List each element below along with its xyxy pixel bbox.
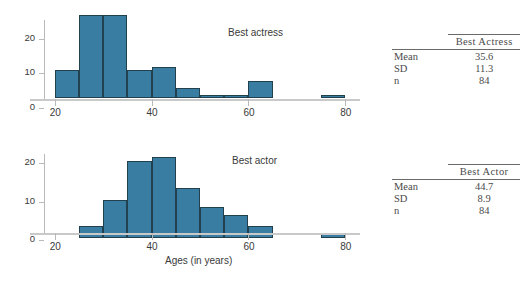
x-axis-tick: 80 <box>345 233 346 240</box>
table-row: Mean 44.7 <box>392 180 520 192</box>
row-label: n <box>392 204 448 216</box>
x-axis-title: Ages (in years) <box>165 255 232 266</box>
plot-area-best-actor <box>45 152 355 238</box>
row-label: Mean <box>392 50 448 62</box>
x-axis-tick-label: 80 <box>340 107 351 118</box>
x-axis-tick-label: 40 <box>147 241 158 252</box>
y-axis-tick: 0 <box>39 108 44 109</box>
row-value: 84 <box>448 74 520 86</box>
x-axis-tick-label: 60 <box>243 107 254 118</box>
chart-title-best-actress: Best actress <box>228 27 283 38</box>
table-row: Mean 35.6 <box>392 50 520 62</box>
x-axis-tick-label: 80 <box>340 241 351 252</box>
table-header-row: Best Actress <box>392 35 520 49</box>
x-axis-tick: 60 <box>248 99 249 106</box>
x-axis-tick: 40 <box>152 99 153 106</box>
histogram-bar <box>127 161 151 238</box>
x-axis-best-actress: 20406080 <box>30 99 360 101</box>
y-axis-tick-label: 0 <box>30 101 39 112</box>
row-value: 84 <box>448 204 520 216</box>
x-axis-tick: 60 <box>248 233 249 240</box>
column-header: Best Actress <box>448 35 520 49</box>
row-value: 8.9 <box>448 192 520 204</box>
y-axis-tick: 0 <box>39 240 44 241</box>
table-row: SD 11.3 <box>392 62 520 74</box>
histogram-best-actress: 01020 20406080 Best actress <box>0 0 370 140</box>
histogram-bar <box>176 88 200 98</box>
table-row: n 84 <box>392 204 520 216</box>
y-axis-tick-label: 20 <box>24 156 39 167</box>
x-axis-tick: 80 <box>345 99 346 106</box>
y-axis-best-actor: 01020 <box>44 154 45 233</box>
x-axis-tick: 20 <box>55 99 56 106</box>
y-axis-tick-label: 20 <box>24 32 39 43</box>
histogram-bar <box>152 67 176 98</box>
histogram-bar <box>224 95 248 98</box>
row-value: 44.7 <box>448 180 520 192</box>
y-axis-tick-label: 10 <box>24 66 39 77</box>
column-header: Best Actor <box>448 165 520 179</box>
row-label: Mean <box>392 180 448 192</box>
histogram-bar <box>103 15 127 98</box>
row-label: SD <box>392 192 448 204</box>
histogram-bar <box>127 70 151 98</box>
x-axis-tick-label: 20 <box>50 241 61 252</box>
row-value: 35.6 <box>448 50 520 62</box>
best-actress-stats-table: Best Actress Mean 35.6 SD 11.3 n 84 <box>392 34 520 86</box>
histogram-bar <box>200 95 224 98</box>
table-header-row: Best Actor <box>392 165 520 179</box>
chart-title-best-actor: Best actor <box>232 155 277 166</box>
x-axis-tick-label: 60 <box>243 241 254 252</box>
x-axis-tick-label: 40 <box>147 107 158 118</box>
histogram-bar <box>321 95 345 98</box>
plot-area-best-actress <box>45 10 355 98</box>
y-axis-tick: 20 <box>39 163 44 164</box>
y-axis-tick-label: 10 <box>24 195 39 206</box>
table-row: SD 8.9 <box>392 192 520 204</box>
table-row: n 84 <box>392 74 520 86</box>
histogram-bar <box>152 157 176 238</box>
y-axis-tick: 10 <box>39 73 44 74</box>
y-axis-tick: 10 <box>39 202 44 203</box>
y-axis-tick: 20 <box>39 39 44 40</box>
x-axis-tick: 20 <box>55 233 56 240</box>
y-axis-best-actress: 01020 <box>44 20 45 99</box>
row-label: n <box>392 74 448 86</box>
best-actor-stats-table: Best Actor Mean 44.7 SD 8.9 n 84 <box>392 164 520 216</box>
histogram-bar <box>248 81 272 98</box>
x-axis-tick-label: 20 <box>50 107 61 118</box>
histogram-bar <box>79 15 103 98</box>
histogram-bar <box>176 188 200 238</box>
row-value: 11.3 <box>448 62 520 74</box>
histogram-bar <box>55 70 79 98</box>
x-axis-tick: 40 <box>152 233 153 240</box>
x-axis-best-actor: 20406080 <box>30 233 360 235</box>
row-label: SD <box>392 62 448 74</box>
